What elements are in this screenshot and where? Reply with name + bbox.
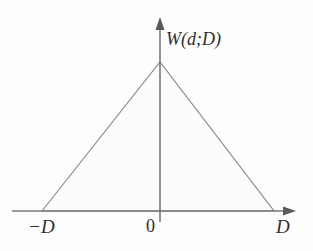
x-axis-arrow-icon [283, 207, 296, 216]
figure-container: −D 0 D W(d;D) [0, 0, 313, 251]
plot-canvas [0, 0, 313, 251]
y-axis-arrow-icon [156, 17, 165, 30]
function-label: W(d;D) [166, 29, 221, 50]
x-tick-label-left: −D [28, 216, 55, 238]
triangle-curve [42, 62, 274, 211]
x-tick-label-origin: 0 [146, 216, 155, 237]
x-tick-label-right: D [276, 216, 290, 238]
